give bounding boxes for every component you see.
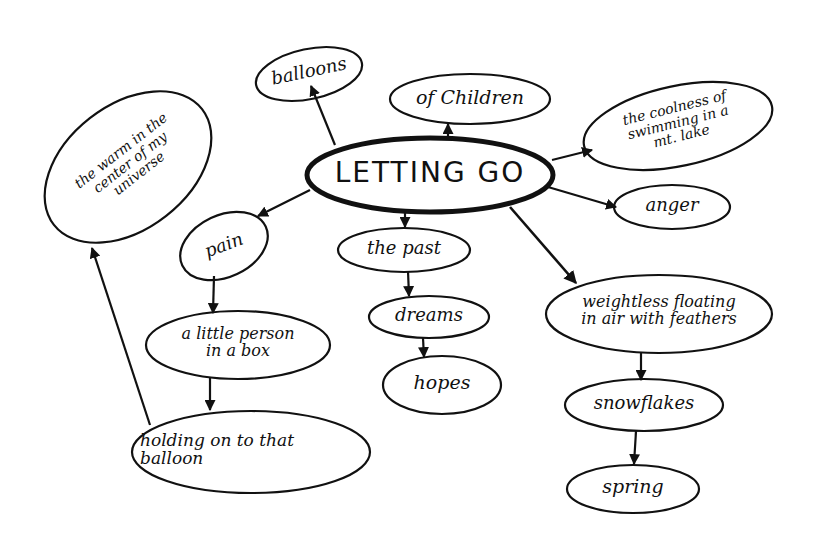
node-anger: anger (622, 196, 722, 215)
node-of-children: of Children (395, 88, 545, 108)
node-the-past: the past (344, 239, 464, 258)
node-hopes: hopes (388, 373, 496, 393)
node-little-person: a little person in a box (153, 326, 323, 360)
node-letting-go: LETTING GO (320, 158, 540, 187)
node-dreams: dreams (374, 306, 484, 325)
node-snowflakes: snowflakes (570, 394, 718, 413)
node-spring: spring (574, 477, 692, 497)
node-weightless: weightless floating in air with feathers (554, 294, 764, 328)
node-holding-balloon: holding on to that balloon (140, 432, 360, 468)
concept-map-canvas (0, 0, 817, 547)
